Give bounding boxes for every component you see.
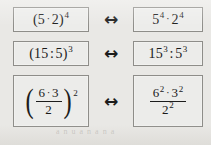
numerator-term-1-exponent: 2 [160, 84, 165, 94]
fraction-outer: 62·32 22 [150, 86, 187, 116]
big-paren-close: ) [63, 88, 71, 115]
expression-power-of-quotient: (15:5)3 [29, 47, 73, 61]
equivalence-row-quotient-power: (15:5)3 ↔ 153:53 [13, 41, 204, 66]
exponent: 2 [73, 89, 78, 98]
base-term-2: 5 [56, 46, 63, 61]
denominator-base: 2 [162, 102, 169, 117]
expression-fraction-of-powers: 62·32 22 [150, 86, 187, 116]
expression-box-left-row2: (15:5)3 [13, 41, 89, 66]
fraction-denominator: 2 [42, 102, 55, 117]
numerator-term-2-base: 3 [171, 85, 178, 100]
term-1-base: 15 [148, 46, 162, 61]
big-paren-open: ( [26, 88, 34, 115]
term-2-base: 2 [171, 12, 178, 27]
term-2-exponent: 3 [183, 44, 188, 54]
background-bleed-through-text: a n u a n a n a [56, 127, 115, 136]
double-arrow-icon-row3: ↔ [89, 93, 133, 110]
multiplication-dot: · [45, 12, 52, 24]
expression-power-of-fraction: ( 6·3 2 )2 [24, 86, 78, 116]
double-arrow-icon-row2: ↔ [89, 45, 133, 62]
numerator-term-2-exponent: 2 [179, 84, 184, 94]
term-2-exponent: 4 [179, 10, 184, 20]
expression-box-right-row1: 54·24 [133, 7, 203, 32]
equivalence-row-fraction-power: ( 6·3 2 )2 ↔ 62·32 22 [13, 75, 204, 127]
exponent: 3 [68, 44, 73, 54]
base-term-1: 15 [34, 46, 48, 61]
term-1-exponent: 4 [160, 10, 165, 20]
term-2-base: 5 [175, 46, 182, 61]
paren-close: ) [63, 46, 68, 61]
division-colon: : [48, 46, 55, 61]
expression-box-right-row3: 62·32 22 [133, 75, 203, 127]
base-term-1: 5 [38, 12, 45, 27]
fraction-inner: 6·3 2 [36, 86, 62, 116]
expression-box-right-row2: 153:53 [133, 41, 203, 66]
exponent: 4 [64, 10, 69, 20]
numerator-term-1-base: 6 [153, 85, 160, 100]
expression-quotient-of-powers: 153:53 [148, 47, 187, 61]
fraction-numerator: 6·3 [36, 86, 62, 102]
equivalence-row-product-power: (5·2)4 ↔ 54·24 [13, 7, 204, 32]
term-1-base: 5 [152, 12, 159, 27]
expression-product-of-powers: 54·24 [152, 13, 184, 27]
expression-box-left-row1: (5·2)4 [13, 7, 89, 32]
numerator-term-2: 3 [52, 85, 59, 100]
base-term-2: 2 [52, 12, 59, 27]
denominator-exponent: 2 [169, 100, 174, 110]
expression-power-of-product: (5·2)4 [33, 13, 69, 27]
expression-box-left-row3: ( 6·3 2 )2 [13, 75, 89, 127]
fraction-numerator: 62·32 [150, 86, 187, 102]
double-arrow-icon-row1: ↔ [89, 11, 133, 28]
fraction-denominator: 22 [159, 102, 177, 117]
power-rules-equivalence-figure: (5·2)4 ↔ 54·24 (15:5)3 ↔ 153:53 ( [0, 0, 211, 145]
